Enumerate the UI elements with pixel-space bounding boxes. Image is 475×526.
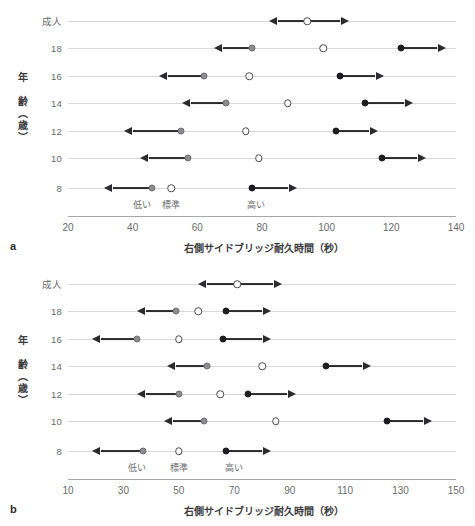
right-arrow-head [405, 99, 413, 107]
row-label-12: 12 [51, 389, 68, 400]
right-arrow-head [341, 17, 349, 25]
right-arrow [226, 450, 262, 452]
marker-low [203, 363, 210, 370]
row-label-8: 8 [57, 446, 68, 457]
marker-low [223, 100, 230, 107]
zone-label-高い: 高い [247, 198, 265, 211]
marker-high [362, 100, 369, 107]
row-label-8: 8 [57, 183, 68, 194]
left-arrow [133, 130, 182, 132]
x-tick-20: 20 [62, 222, 73, 233]
right-arrow [248, 393, 287, 395]
panel-a: 年 齢（歳）成人18161412108低い標準高い204060801001201… [0, 0, 475, 263]
right-arrow-head [438, 44, 446, 52]
x-tick-80: 80 [256, 222, 267, 233]
right-arrow [387, 420, 423, 422]
right-arrow [401, 47, 437, 49]
left-arrow [176, 365, 206, 367]
marker-high [222, 308, 229, 315]
right-arrow [223, 338, 262, 340]
right-arrow [326, 365, 362, 367]
row-label-14: 14 [51, 98, 68, 109]
y-axis-title: 年 齢（歳） [14, 335, 29, 407]
left-arrow [168, 75, 204, 77]
right-arrow-head [363, 362, 371, 370]
marker-low [139, 448, 146, 455]
left-arrow-head [198, 280, 206, 288]
row-label-16: 16 [51, 334, 68, 345]
left-arrow [149, 157, 188, 159]
row-label-12: 12 [51, 126, 68, 137]
row-label-10: 10 [51, 416, 68, 427]
marker-standard [217, 390, 225, 398]
left-arrow-head [182, 99, 190, 107]
marker-standard [284, 99, 292, 107]
left-arrow-head [140, 154, 148, 162]
zone-label-低い: 低い [128, 461, 146, 474]
right-arrow [226, 310, 262, 312]
right-arrow-head [274, 280, 282, 288]
left-arrow-head [137, 307, 145, 315]
x-tick-100: 100 [318, 222, 335, 233]
x-axis-line [68, 216, 456, 217]
marker-standard [195, 307, 203, 315]
marker-standard [168, 184, 176, 192]
right-arrow-head [376, 72, 384, 80]
x-tick-140: 140 [448, 222, 465, 233]
marker-standard [258, 362, 266, 370]
left-arrow-head [124, 127, 132, 135]
marker-standard [242, 127, 250, 135]
zone-label-低い: 低い [133, 198, 151, 211]
marker-low [173, 308, 180, 315]
left-arrow [173, 420, 203, 422]
marker-standard [320, 44, 328, 52]
marker-high [383, 418, 390, 425]
marker-high [222, 448, 229, 455]
left-arrow [101, 450, 143, 452]
left-arrow-head [92, 335, 100, 343]
x-tick-10: 10 [62, 485, 73, 496]
left-arrow-head [164, 417, 172, 425]
left-arrow [191, 102, 227, 104]
right-arrow [307, 20, 339, 22]
row-label-成人: 成人 [42, 277, 68, 291]
row-label-成人: 成人 [42, 14, 68, 28]
row-gridline [68, 21, 456, 22]
zone-label-標準: 標準 [162, 198, 180, 211]
marker-standard [175, 335, 183, 343]
x-tick-110: 110 [337, 485, 353, 496]
right-arrow-head [263, 335, 271, 343]
marker-standard [272, 417, 280, 425]
x-tick-60: 60 [192, 222, 203, 233]
marker-low [200, 73, 207, 80]
left-arrow [146, 393, 179, 395]
left-arrow-head [269, 17, 277, 25]
marker-high [322, 363, 329, 370]
left-arrow-head [137, 390, 145, 398]
marker-low [149, 185, 156, 192]
left-arrow-head [214, 44, 222, 52]
x-tick-50: 50 [173, 485, 184, 496]
right-arrow-head [370, 127, 378, 135]
row-label-10: 10 [51, 153, 68, 164]
right-arrow-head [263, 307, 271, 315]
row-label-18: 18 [51, 43, 68, 54]
right-arrow [365, 102, 404, 104]
zone-label-標準: 標準 [170, 461, 188, 474]
left-arrow-head [104, 184, 112, 192]
marker-high [336, 73, 343, 80]
marker-high [333, 128, 340, 135]
row-label-16: 16 [51, 71, 68, 82]
marker-standard [175, 447, 183, 455]
panel-letter-b: b [10, 503, 17, 515]
x-axis-title: 右側サイドブリッジ耐久時間（秒） [184, 503, 344, 518]
marker-low [249, 45, 256, 52]
x-tick-90: 90 [284, 485, 295, 496]
x-tick-70: 70 [229, 485, 240, 496]
right-arrow-head [424, 417, 432, 425]
right-arrow-head [289, 184, 297, 192]
right-arrow [340, 75, 376, 77]
marker-high [249, 185, 256, 192]
marker-high [220, 336, 227, 343]
left-arrow-head [92, 447, 100, 455]
